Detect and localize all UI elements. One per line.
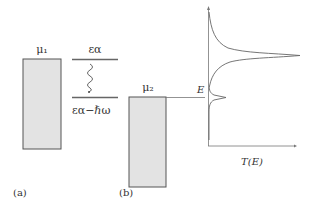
transmission-axis-label: T(E)	[241, 156, 263, 167]
transmission-axis-arrow-icon	[294, 145, 297, 148]
mu2-label: μ₂	[142, 81, 154, 94]
panel-a: μ₁ εα εα−ℏω (a)	[13, 43, 118, 198]
mu1-label: μ₁	[36, 43, 48, 56]
energy-axis-arrow-icon	[207, 6, 210, 10]
diagram-canvas: μ₁ εα εα−ℏω (a) μ₂ E T(E) (b)	[0, 0, 315, 208]
panel-a-caption: (a)	[13, 187, 27, 198]
photon-arrow-tip	[88, 91, 90, 93]
upper-level-label: εα	[88, 43, 102, 56]
transmission-curve	[209, 12, 300, 140]
lower-level-label: εα−ℏω	[72, 104, 110, 117]
reservoir-2-box	[129, 97, 166, 187]
panel-b-caption: (b)	[119, 187, 133, 198]
photon-wave-icon	[88, 64, 93, 92]
energy-axis-label: E	[196, 84, 205, 95]
reservoir-1-box	[23, 59, 61, 149]
panel-b: μ₂ E T(E) (b)	[119, 6, 300, 198]
